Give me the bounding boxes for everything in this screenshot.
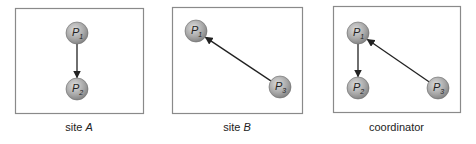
panel-siteA: P1P2site A (16, 9, 144, 134)
node-p3: P3 (427, 77, 449, 99)
node-p2: P2 (347, 77, 369, 99)
node-p1: P1 (347, 22, 369, 44)
panel-caption: site A (65, 121, 93, 133)
node-p1: P1 (66, 22, 88, 44)
node-p3: P3 (269, 76, 291, 98)
node-p1: P1 (185, 20, 207, 42)
node-p2: P2 (66, 78, 88, 100)
panel-siteB: P1P3site B (173, 8, 303, 134)
panel-caption: coordinator (369, 121, 424, 133)
wait-for-graph-figure: P1P2site AP1P3site BP1P2P3coordinator (0, 0, 476, 144)
panel-coordinator: P1P2P3coordinator (334, 7, 461, 134)
panel-caption: site B (223, 121, 251, 133)
